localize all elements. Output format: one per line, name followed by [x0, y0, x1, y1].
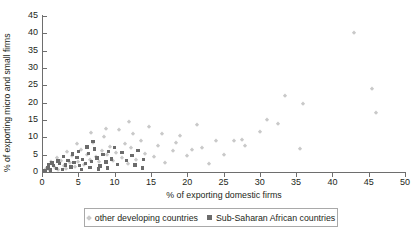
data-point	[276, 122, 281, 127]
data-point	[265, 118, 270, 123]
data-point	[75, 156, 78, 159]
x-tick-label: 35	[284, 178, 308, 187]
data-point	[301, 102, 306, 107]
data-point	[156, 143, 161, 148]
legend-item-other-developing[interactable]: other developing countries	[87, 213, 198, 223]
legend-label-other-developing: other developing countries	[95, 213, 198, 223]
data-point	[352, 31, 357, 36]
data-point	[50, 161, 53, 164]
data-point	[69, 165, 72, 168]
data-point	[77, 150, 80, 153]
y-tick-label: 25	[16, 80, 38, 89]
data-point	[87, 152, 90, 155]
data-point	[297, 147, 302, 152]
chart-legend: other developing countries Sub-Saharan A…	[84, 208, 338, 227]
data-point	[74, 142, 79, 147]
y-tick-label: 5	[16, 150, 38, 159]
data-point	[88, 166, 91, 169]
y-tick-label: 20	[16, 98, 38, 107]
y-axis-label: % of exporting micro and small firms	[2, 16, 14, 172]
legend-item-sub-saharan[interactable]: Sub-Saharan African countries	[207, 213, 335, 223]
data-point	[85, 145, 88, 148]
x-axis-label: % of exporting domestic firms	[42, 190, 406, 200]
data-point	[84, 162, 87, 165]
data-point	[232, 138, 237, 143]
data-point	[174, 140, 179, 145]
data-point	[114, 151, 119, 156]
data-point	[64, 166, 69, 171]
x-tick-label: 30	[248, 178, 272, 187]
data-point	[91, 140, 94, 143]
data-point	[147, 125, 152, 130]
data-point	[110, 157, 113, 160]
data-point	[178, 133, 183, 138]
x-tick-label: 50	[393, 178, 417, 187]
data-point	[125, 159, 128, 162]
data-point	[214, 139, 219, 144]
data-point	[170, 149, 175, 154]
data-point	[64, 163, 67, 166]
data-point	[116, 163, 119, 166]
data-point	[134, 158, 139, 163]
data-point	[189, 147, 194, 152]
x-tick-label: 45	[357, 178, 381, 187]
data-point	[370, 86, 375, 91]
x-tick-label: 15	[139, 178, 163, 187]
y-tick-label: 30	[16, 63, 38, 72]
y-tick-label: 0	[16, 167, 38, 176]
y-tick-label: 10	[16, 132, 38, 141]
data-point	[243, 144, 248, 149]
data-point	[130, 154, 133, 157]
data-point	[136, 149, 139, 152]
data-point	[207, 162, 212, 167]
data-point	[113, 146, 116, 149]
data-point	[239, 138, 244, 143]
x-tick-label: 40	[320, 178, 344, 187]
scatter-chart-figure: % of exporting micro and small firms 051…	[0, 0, 419, 234]
data-point	[163, 160, 168, 165]
data-point	[257, 130, 262, 135]
data-point	[127, 119, 132, 124]
x-tick-label: 10	[103, 178, 127, 187]
data-point	[102, 135, 107, 140]
data-point	[131, 131, 136, 136]
data-point	[61, 168, 64, 171]
data-point	[106, 166, 109, 169]
data-point	[93, 147, 96, 150]
data-point	[128, 146, 133, 151]
y-axis-label-container: % of exporting micro and small firms	[2, 172, 14, 234]
y-tick-label: 35	[16, 46, 38, 55]
data-point	[105, 153, 110, 158]
data-point	[122, 142, 127, 147]
x-tick-label: 0	[30, 178, 54, 187]
y-tick-label: 45	[16, 11, 38, 20]
data-point	[78, 164, 81, 167]
x-tick-label: 5	[66, 178, 90, 187]
data-point	[66, 159, 69, 162]
data-point	[104, 160, 107, 163]
data-point	[90, 160, 93, 163]
x-tick-label: 20	[175, 178, 199, 187]
data-point	[55, 167, 58, 170]
data-point	[199, 145, 204, 150]
y-tick-label: 40	[16, 28, 38, 37]
data-point	[142, 158, 145, 161]
data-point	[47, 163, 50, 166]
data-point	[65, 149, 70, 154]
x-tick-label: 25	[212, 178, 236, 187]
data-point	[107, 150, 110, 153]
y-tick-label: 15	[16, 115, 38, 124]
data-point	[62, 155, 65, 158]
data-point	[195, 123, 200, 128]
data-point	[49, 168, 52, 171]
data-point	[120, 151, 123, 154]
data-point	[221, 152, 226, 157]
data-point	[159, 131, 164, 136]
data-point	[103, 126, 108, 131]
data-point	[138, 138, 143, 143]
data-point	[97, 167, 100, 170]
data-point	[95, 156, 98, 159]
data-point	[374, 111, 379, 116]
data-point	[101, 153, 104, 156]
plot-area	[42, 16, 405, 172]
